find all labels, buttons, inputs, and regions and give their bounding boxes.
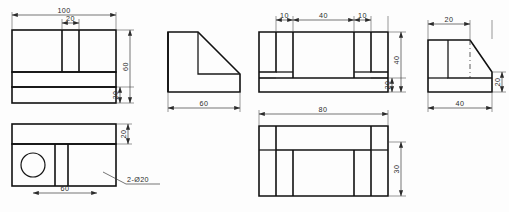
side-profile-dimensions: 60 — [168, 93, 240, 112]
dim-label-20-top-depth: 20 — [119, 130, 128, 139]
dim-label-60-height: 60 — [121, 62, 130, 71]
dim-label-40-height: 40 — [392, 56, 401, 65]
dim-label-20-base: 20 — [111, 91, 120, 100]
dim-label-40-right-width: 40 — [456, 99, 465, 108]
dim-label-20-slot: 20 — [66, 14, 75, 23]
dim-label-20-top-flat: 20 — [445, 15, 454, 24]
hole-callout-label: 2-Ø20 — [127, 175, 149, 184]
rear-view-dimensions: 10 40 10 40 20 — [276, 11, 406, 92]
dim-label-20-right-height: 20 — [493, 78, 502, 87]
hole-left — [21, 153, 45, 177]
dim-label-60-profile: 60 — [200, 99, 209, 108]
right-side-view-dimensions: 20 40 20 — [428, 15, 506, 112]
top-view-dimensions: 60 20 2-Ø20 — [33, 124, 160, 193]
dim-label-10-left: 10 — [280, 11, 289, 20]
top-view — [12, 124, 116, 186]
dim-label-40-center: 40 — [319, 11, 328, 20]
side-profile-view — [168, 32, 240, 92]
dim-label-10-right: 10 — [358, 11, 367, 20]
bottom-view — [259, 126, 388, 196]
dim-label-20-rear-base: 20 — [383, 81, 392, 90]
dim-label-80-width: 80 — [319, 105, 328, 114]
engineering-drawing-sheet: 100 20 60 20 60 — [0, 0, 509, 212]
dim-label-30-height: 30 — [392, 165, 401, 174]
right-side-view — [428, 40, 492, 92]
drawing-canvas: 100 20 60 20 60 — [0, 0, 509, 212]
dim-label-60-hole-spacing: 60 — [61, 184, 70, 193]
rear-view — [259, 32, 388, 92]
front-view — [12, 30, 116, 103]
